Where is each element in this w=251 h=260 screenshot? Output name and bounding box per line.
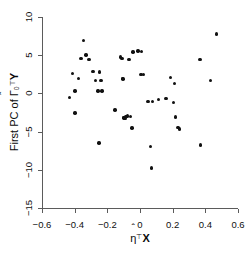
scatter-point [82,39,85,42]
scatter-point [150,166,153,169]
y-axis-tick-label-text: −5 [23,126,34,137]
x-axis-tick [238,209,239,213]
scatter-point [79,57,82,60]
x-axis-tick-label: 0.6 [218,214,251,232]
scatter-point [99,79,102,82]
scatter-point [121,77,124,80]
scatter-point [68,96,71,99]
x-axis-tick [173,209,174,213]
scatter-point [169,76,172,79]
scatter-point [151,100,154,103]
scatter-point [73,111,76,114]
y-axis-title-prefix: First PC of [8,97,20,152]
y-axis-title: First PC of Γˆ0⊤Y [4,0,24,225]
plot-data-area [42,17,238,208]
x-axis-tick-label-text: 0.2 [166,219,179,230]
scatter-point [131,50,134,53]
scatter-point [94,79,97,82]
x-axis-tick-label-text: 0.6 [231,219,244,230]
x-axis-tick-label-text: −0.6 [33,219,52,230]
scatter-point [215,32,218,35]
scatter-point [149,145,152,148]
y-axis-tick-label-text: 10 [23,12,34,23]
scatter-point [97,141,100,144]
x-axis-tick-label-text: 0 [137,219,142,230]
y-axis-tick-label: 5 [20,50,36,60]
x-axis-tick [75,209,76,213]
gamma-superscript: ⊤ [9,81,16,87]
scatter-plot-figure: First PC of Γˆ0⊤Y ηˆ⊤X −15−10−50510−0.6−… [0,0,251,260]
scatter-point [113,108,116,111]
scatter-point [157,98,160,101]
scatter-point [84,53,87,56]
scatter-point [96,89,99,92]
y-axis-tick-label: 10 [20,12,36,22]
scatter-point [129,115,132,118]
x-axis-tick [140,209,141,213]
scatter-point [91,70,94,73]
scatter-point [120,57,123,60]
y-axis-tick-label: −5 [20,127,36,137]
x-axis-title: ηˆ⊤X [42,232,238,244]
scatter-point [142,73,145,76]
x-axis-tick [205,209,206,213]
scatter-point [87,58,90,61]
gamma-hat-symbol: Γˆ [8,91,20,97]
scatter-point [130,126,133,129]
y-axis-tick-label-text: −10 [23,162,34,178]
scatter-point [173,82,176,85]
scatter-point [199,143,202,146]
hat-accent-icon: ˆ [0,91,10,97]
scatter-point [146,100,149,103]
scatter-point [209,79,212,82]
scatter-point [164,97,167,100]
y-axis-tick-label: 0 [20,88,36,98]
x-axis-tick-label-text: 0.4 [199,219,212,230]
x-axis-tick-label-text: −0.2 [98,219,117,230]
x-axis-tick [107,209,108,213]
eta-hat-symbol: ηˆ [130,232,136,244]
scatter-point [71,72,74,75]
scatter-point [172,101,175,104]
scatter-point [178,127,181,130]
scatter-point [127,58,130,61]
y-axis-tick-label-text: 0 [23,91,34,96]
x-axis-tick-label-text: −0.4 [65,219,84,230]
scatter-point [73,89,76,92]
scatter-point [140,50,143,53]
y-variable-symbol: Y [8,73,20,80]
y-axis-tick-label: −15 [20,203,36,213]
x-variable-symbol: X [142,232,149,244]
scatter-point [77,77,80,80]
y-axis-title-text: First PC of Γˆ0⊤Y [8,73,20,151]
scatter-point [198,58,201,61]
scatter-point [100,89,103,92]
x-axis-tick [42,209,43,213]
y-axis-tick-label-text: 5 [23,53,34,58]
y-axis-tick-label: −10 [20,165,36,175]
scatter-point [98,70,101,73]
scatter-point [174,115,177,118]
